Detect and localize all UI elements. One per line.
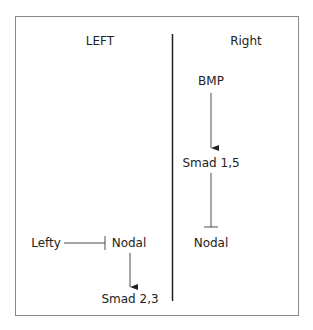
node-nodal-right: Nodal — [194, 236, 229, 250]
node-lefty: Lefty — [31, 236, 61, 250]
node-smad15: Smad 1,5 — [182, 156, 239, 170]
node-bmp: BMP — [198, 74, 224, 88]
node-nodal-left: Nodal — [112, 236, 147, 250]
right-heading: Right — [230, 34, 262, 48]
left-heading: LEFT — [86, 34, 115, 48]
signaling-diagram: LEFT Right BMP Smad 1,5 Nodal Lefty Noda… — [0, 0, 313, 330]
node-smad23: Smad 2,3 — [101, 292, 158, 306]
frame — [16, 17, 299, 316]
